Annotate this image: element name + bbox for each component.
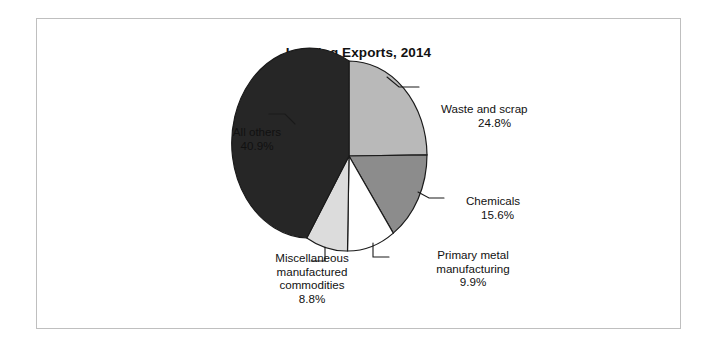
pie-label-miscellaneous-manufactured-commodities-value: 8.8%	[299, 292, 325, 305]
pie-label-chemicals-text: Chemicals	[466, 194, 520, 207]
figure-canvas: Leading Exports, 2014	[0, 0, 717, 354]
pie-label-waste-and-scrap: Waste and scrap24.8%	[441, 102, 591, 129]
pie-label-primary-metal-manufacturing: Primary metal manufacturing9.9%	[409, 248, 537, 289]
pie-label-primary-metal-manufacturing-value: 9.9%	[460, 275, 486, 288]
pie-label-all-others-value: 40.9%	[241, 139, 274, 152]
pie-label-chemicals-value: 15.6%	[466, 208, 529, 222]
pie-label-primary-metal-manufacturing-text: Primary metal manufacturing	[436, 248, 509, 275]
leader-line-chemicals	[418, 192, 444, 198]
pie-label-all-others-text: All others	[233, 125, 281, 138]
pie-label-miscellaneous-manufactured-commodities: Miscellaneous manufactured commodities8.…	[247, 251, 377, 305]
pie-slice-waste-and-scrap[interactable]	[349, 61, 427, 156]
pie-label-chemicals: Chemicals15.6%	[466, 194, 596, 221]
pie-label-all-others: All others40.9%	[192, 125, 322, 152]
pie-label-waste-and-scrap-value: 24.8%	[441, 116, 548, 130]
pie-label-miscellaneous-manufactured-commodities-text: Miscellaneous manufactured commodities	[275, 251, 348, 291]
figure-frame: Leading Exports, 2014	[36, 18, 681, 329]
pie-label-waste-and-scrap-text: Waste and scrap	[441, 102, 528, 115]
